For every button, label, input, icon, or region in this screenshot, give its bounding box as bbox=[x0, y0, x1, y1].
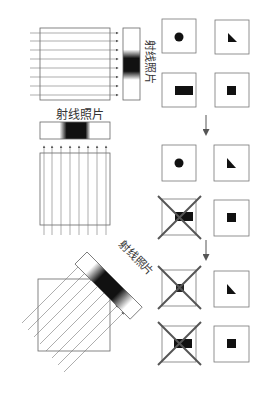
ray-lines-vertical bbox=[44, 146, 106, 235]
film-strip-vertical bbox=[123, 28, 140, 100]
cross-out-icon bbox=[158, 322, 201, 365]
square-shape bbox=[227, 213, 236, 222]
grid-stage-3 bbox=[158, 266, 249, 365]
square-shape bbox=[227, 339, 236, 348]
vertical-projection: 射线照片 bbox=[40, 107, 110, 235]
square-shape bbox=[227, 86, 236, 95]
diagonal-projection: 射线照片 bbox=[22, 237, 157, 372]
grid-stage-1 bbox=[162, 19, 249, 107]
triangle-shape bbox=[227, 284, 236, 294]
film-label-3: 射线照片 bbox=[116, 237, 157, 278]
cross-out-icon bbox=[158, 196, 201, 239]
ray-lines-horizontal bbox=[30, 33, 118, 95]
circle-shape bbox=[175, 33, 184, 42]
radiograph-projection-diagram: 射线照片 射线照片 bbox=[0, 0, 266, 393]
film-label-2: 射线照片 bbox=[56, 107, 104, 122]
horizontal-projection: 射线照片 bbox=[30, 28, 157, 100]
rectangle-shape bbox=[175, 86, 193, 95]
film-strip-horizontal bbox=[40, 122, 110, 139]
film-label-1: 射线照片 bbox=[143, 40, 157, 84]
circle-shape bbox=[175, 159, 184, 168]
cross-out-icon bbox=[158, 266, 201, 309]
object-box-vertical bbox=[40, 153, 110, 225]
triangle-shape bbox=[227, 158, 236, 168]
object-box-horizontal bbox=[40, 28, 110, 100]
grid-stage-2 bbox=[158, 145, 249, 239]
object-box-diagonal bbox=[38, 279, 110, 351]
triangle-shape bbox=[228, 33, 237, 42]
